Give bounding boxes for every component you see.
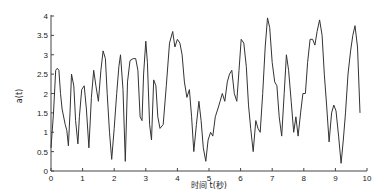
x-tick-label: 7 <box>270 174 275 183</box>
y-tick-label: 2 <box>44 90 49 99</box>
x-tick-label: 3 <box>144 174 149 183</box>
x-tick-label: 4 <box>175 174 180 183</box>
x-tick-label: 2 <box>112 174 117 183</box>
series-line-a-t <box>51 18 360 163</box>
x-tick-label: 8 <box>302 174 307 183</box>
line-chart: 00.511.522.533.54 012345678910 时间 t(秒) a… <box>0 0 390 194</box>
x-tick-label: 6 <box>238 174 243 183</box>
x-axis-label: 时间 t(秒) <box>191 180 227 190</box>
y-tick-label: 0.5 <box>37 148 49 157</box>
x-tick-label: 0 <box>49 174 54 183</box>
y-tick-label: 2.5 <box>37 70 49 79</box>
y-axis-label: a(t) <box>15 89 24 103</box>
axes <box>51 15 367 171</box>
x-tick-label: 1 <box>80 174 85 183</box>
y-tick-label: 1 <box>44 128 49 137</box>
y-tick-label: 4 <box>44 12 49 21</box>
x-tick-label: 9 <box>333 174 338 183</box>
x-tick-label: 10 <box>363 174 372 183</box>
y-tick-label: 3.5 <box>37 31 49 40</box>
y-tick-label: 1.5 <box>37 109 49 118</box>
y-tick-label: 3 <box>44 51 49 60</box>
